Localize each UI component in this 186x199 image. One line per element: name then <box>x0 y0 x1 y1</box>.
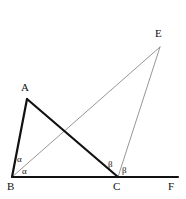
vertex-label-A: A <box>21 82 29 93</box>
angle-label-beta-right: β <box>122 166 127 175</box>
angle-label-beta-left: β <box>108 160 113 169</box>
angle-label-alpha-upper: α <box>17 155 22 164</box>
thick-segments <box>12 99 178 177</box>
angle-label-alpha-lower: α <box>22 167 27 176</box>
vertex-label-C: C <box>113 181 120 192</box>
geometry-figure: A B C E F α α β β <box>0 0 186 199</box>
thin-segments <box>12 47 160 177</box>
vertex-label-F: F <box>168 181 174 192</box>
segment-AC <box>27 99 118 177</box>
segment-CE <box>118 47 160 177</box>
vertex-label-E: E <box>155 28 162 39</box>
segment-BE <box>12 47 160 177</box>
vertex-label-B: B <box>7 181 14 192</box>
